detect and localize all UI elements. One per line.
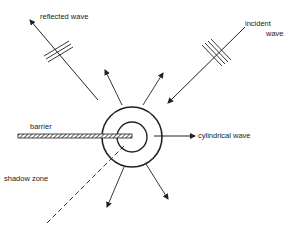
- shadow-boundary-dashed-line: [45, 146, 124, 225]
- shadow-zone-label: shadow zone: [4, 174, 48, 183]
- incident-wave-arrow: [168, 27, 245, 103]
- radial-arrow-down-left: [107, 167, 124, 207]
- cylindrical-wave-label: cylindrical wave: [198, 131, 251, 140]
- radial-arrow-up-right: [143, 73, 163, 105]
- reflected-wave-label: reflected wave: [40, 12, 88, 21]
- diffraction-diagram: reflected wave incident wave barrier cyl…: [0, 0, 301, 237]
- incident-label-line1: incident: [245, 19, 272, 28]
- reflected-wave-arrow: [30, 20, 98, 100]
- incident-label-line2: wave: [265, 29, 284, 38]
- radial-arrow-up-left: [105, 70, 122, 105]
- barrier-label: barrier: [30, 122, 52, 131]
- radial-arrow-down-right: [146, 164, 168, 199]
- barrier: [18, 134, 132, 138]
